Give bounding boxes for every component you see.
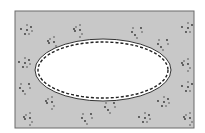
texture-dot <box>148 114 150 116</box>
texture-dot <box>189 90 190 91</box>
texture-dot <box>51 96 52 97</box>
texture-dot <box>157 43 159 45</box>
diagram-canvas <box>0 0 205 133</box>
texture-dot <box>187 70 188 71</box>
texture-dot <box>19 87 21 89</box>
texture-dot <box>165 105 166 106</box>
texture-dot <box>114 106 115 107</box>
texture-dot <box>131 31 133 33</box>
texture-dot <box>107 109 109 111</box>
texture-dot <box>149 118 150 119</box>
texture-dot <box>48 42 50 44</box>
texture-dot <box>189 117 191 119</box>
texture-dot <box>51 101 53 103</box>
texture-dot <box>82 113 83 114</box>
texture-dot <box>22 66 24 68</box>
texture-dot <box>144 112 145 113</box>
texture-dot <box>181 62 183 64</box>
texture-dot <box>20 83 21 84</box>
texture-dot <box>86 123 87 124</box>
texture-dot <box>91 117 92 118</box>
texture-dot <box>30 26 32 28</box>
texture-dot <box>104 106 106 108</box>
texture-dot <box>24 93 25 94</box>
texture-dot <box>184 118 186 120</box>
texture-dot <box>187 81 188 82</box>
texture-dot <box>26 24 27 25</box>
texture-dot <box>187 22 188 23</box>
texture-dot <box>53 41 55 43</box>
texture-dot <box>20 28 22 30</box>
texture-dot <box>191 121 192 122</box>
texture-dot <box>141 31 142 32</box>
texture-dot <box>134 34 136 36</box>
texture-dot <box>142 121 144 123</box>
texture-dot <box>79 36 80 37</box>
texture-dot <box>144 117 146 119</box>
texture-dot <box>75 26 76 27</box>
texture-dot <box>109 112 110 113</box>
texture-dot <box>18 61 20 63</box>
texture-dot <box>185 90 187 92</box>
texture-dot <box>187 63 189 65</box>
texture-dot <box>25 114 26 115</box>
texture-dot <box>189 31 190 32</box>
texture-dot <box>31 30 32 31</box>
texture-dot <box>189 124 190 125</box>
texture-dot <box>168 102 169 103</box>
texture-dot <box>26 29 28 31</box>
texture-dot <box>81 33 82 34</box>
texture-dot <box>191 24 193 26</box>
texture-dot <box>138 116 140 118</box>
texture-dot <box>23 116 25 118</box>
texture-dot <box>26 66 27 67</box>
texture-dot <box>113 102 115 104</box>
texture-dot <box>74 30 76 32</box>
texture-dot <box>24 118 26 120</box>
texture-dot <box>187 27 189 29</box>
texture-dot <box>187 86 189 88</box>
texture-dot <box>146 121 147 122</box>
texture-dot <box>167 43 168 44</box>
texture-dot <box>167 98 169 100</box>
texture-dot <box>46 102 48 104</box>
texture-dot <box>157 100 159 102</box>
texture-dot <box>132 27 133 28</box>
texture-dot <box>162 49 163 50</box>
texture-dot <box>29 112 30 113</box>
texture-dot <box>22 90 24 92</box>
texture-dot <box>29 87 30 88</box>
texture-dot <box>29 117 31 119</box>
texture-dot <box>24 62 26 64</box>
texture-dot <box>181 85 183 87</box>
texture-dot <box>84 120 86 122</box>
texture-dot <box>182 64 184 66</box>
texture-dot <box>28 59 30 61</box>
texture-dot <box>185 114 186 115</box>
texture-dot <box>53 36 54 37</box>
texture-dot <box>136 37 137 38</box>
texture-dot <box>185 31 187 33</box>
texture-dot <box>90 113 92 115</box>
texture-dot <box>29 124 30 125</box>
texture-dot <box>47 98 48 99</box>
texture-dot <box>163 96 164 97</box>
texture-dot <box>189 67 190 68</box>
texture-dot <box>140 27 142 29</box>
texture-dot <box>24 57 25 58</box>
texture-dot <box>166 39 168 41</box>
texture-dot <box>191 83 193 85</box>
texture-dot <box>45 100 47 102</box>
texture-dot <box>24 33 26 35</box>
texture-dot <box>29 63 30 64</box>
texture-dot <box>158 39 159 40</box>
texture-dot <box>163 101 165 103</box>
texture-dot <box>47 40 49 42</box>
texture-dot <box>160 46 162 48</box>
texture-dot <box>161 105 163 107</box>
texture-dot <box>28 33 29 34</box>
texture-dot <box>183 60 184 61</box>
inner-white-ellipse <box>35 39 171 101</box>
texture-dot <box>31 121 32 122</box>
texture-dot <box>181 26 183 28</box>
